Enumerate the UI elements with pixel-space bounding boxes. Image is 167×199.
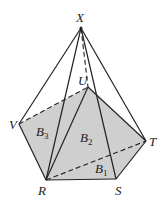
label-S: S (115, 184, 122, 197)
region-B3: B3 (36, 125, 48, 141)
label-R: R (38, 184, 46, 197)
apex-point (80, 27, 83, 30)
region-B2: B2 (80, 131, 92, 147)
pyramid-diagram: X U V T R S B3 B2 B1 (0, 0, 167, 199)
label-V: V (9, 118, 17, 131)
label-X: X (76, 11, 84, 24)
region-B1: B1 (95, 162, 107, 178)
pyramid-figure (0, 0, 167, 199)
label-T: T (149, 135, 156, 148)
label-U: U (78, 74, 87, 87)
